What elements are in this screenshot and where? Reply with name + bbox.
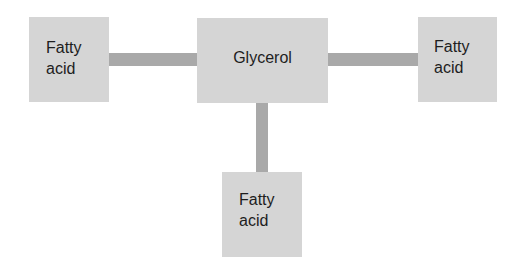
fatty-acid-right-box: Fatty acid [418, 17, 497, 102]
fatty-acid-right-label: Fatty acid [434, 36, 470, 78]
connector-bottom [256, 102, 268, 173]
fatty-acid-left-box: Fatty acid [29, 17, 109, 102]
fatty-acid-bottom-label: Fatty acid [239, 189, 275, 231]
connector-right [327, 53, 419, 66]
connector-left [108, 53, 198, 66]
glycerol-box: Glycerol [197, 18, 328, 103]
fatty-acid-bottom-box: Fatty acid [222, 172, 302, 257]
fatty-acid-left-label: Fatty acid [46, 37, 82, 79]
glycerol-label: Glycerol [233, 47, 292, 68]
